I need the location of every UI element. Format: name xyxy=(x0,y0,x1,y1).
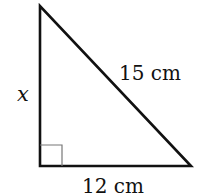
triangle-shape xyxy=(40,6,191,166)
triangle-diagram: x 15 cm 12 cm xyxy=(0,0,208,196)
right-angle-marker xyxy=(40,145,62,166)
hypotenuse-label: 15 cm xyxy=(119,61,181,85)
side-label-x: x xyxy=(17,82,29,106)
base-label: 12 cm xyxy=(82,174,144,196)
